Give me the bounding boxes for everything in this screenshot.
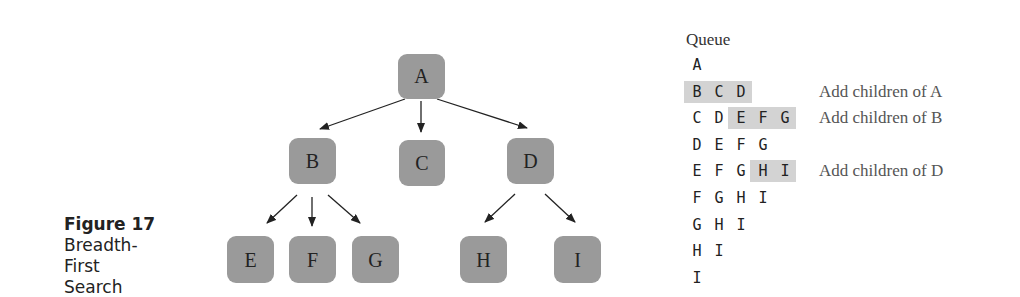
- queue-item: H: [730, 187, 752, 209]
- edge-B-G: [328, 195, 360, 223]
- queue-row: A: [686, 54, 1006, 78]
- queue-item: G: [708, 187, 730, 209]
- queue-item: H: [708, 214, 730, 236]
- queue-item: F: [752, 107, 774, 129]
- queue-title: Queue: [686, 30, 730, 50]
- queue-item: C: [708, 81, 730, 103]
- node-B: B: [289, 138, 336, 184]
- queue-note: Add children of B: [819, 107, 942, 129]
- node-A: A: [398, 54, 445, 99]
- svg-text:F: F: [307, 249, 318, 271]
- queue-item: G: [730, 160, 752, 182]
- node-G: G: [352, 236, 399, 283]
- edge-A-D: [437, 99, 527, 128]
- svg-text:D: D: [523, 150, 537, 172]
- queue-item: G: [752, 134, 774, 156]
- node-C: C: [399, 140, 445, 186]
- queue-item: F: [708, 160, 730, 182]
- queue-item: H: [686, 240, 708, 262]
- queue-item: D: [686, 134, 708, 156]
- queue-note: Add children of A: [819, 81, 942, 103]
- edge-A-B: [320, 99, 405, 129]
- svg-text:H: H: [476, 249, 490, 271]
- edge-B-E: [267, 195, 297, 223]
- queue-item: G: [774, 107, 796, 129]
- svg-text:E: E: [244, 249, 256, 271]
- queue-item: E: [708, 134, 730, 156]
- queue-row: GHI: [686, 214, 1006, 238]
- queue-item: E: [686, 160, 708, 182]
- queue-row: HI: [686, 240, 1006, 264]
- queue-row: FGHI: [686, 187, 1006, 211]
- queue-note: Add children of D: [819, 160, 943, 182]
- queue-item: F: [730, 134, 752, 156]
- queue-row: I: [686, 267, 1006, 291]
- queue-item: D: [708, 107, 730, 129]
- queue-item: I: [752, 187, 774, 209]
- queue-item: G: [686, 214, 708, 236]
- svg-text:G: G: [368, 249, 382, 271]
- queue-item: I: [686, 267, 708, 289]
- node-I: I: [554, 236, 601, 283]
- queue-item: I: [774, 160, 796, 182]
- queue-row: DEFG: [686, 134, 1006, 158]
- queue-row: CDEFGAdd children of B: [686, 107, 1006, 131]
- node-D: D: [507, 138, 554, 184]
- edge-D-H: [485, 194, 515, 222]
- queue-row: BCDAdd children of A: [686, 81, 1006, 105]
- nodes: A B C D E F G H I: [227, 54, 601, 283]
- node-F: F: [289, 236, 336, 283]
- node-H: H: [460, 236, 507, 283]
- queue-item: B: [686, 81, 708, 103]
- queue-item: E: [730, 107, 752, 129]
- queue-item: F: [686, 187, 708, 209]
- node-E: E: [227, 236, 274, 283]
- svg-text:I: I: [574, 249, 581, 271]
- svg-text:A: A: [414, 65, 429, 87]
- queue-item: C: [686, 107, 708, 129]
- queue-row: EFGHIAdd children of D: [686, 160, 1006, 184]
- queue-item: I: [708, 240, 730, 262]
- bfs-tree: A B C D E F G H I: [0, 0, 640, 289]
- queue-item: A: [686, 54, 708, 76]
- edge-D-I: [545, 194, 575, 222]
- queue-item: I: [730, 214, 752, 236]
- svg-text:B: B: [306, 150, 319, 172]
- queue-item: D: [730, 81, 752, 103]
- queue-item: H: [752, 160, 774, 182]
- svg-text:C: C: [415, 152, 428, 174]
